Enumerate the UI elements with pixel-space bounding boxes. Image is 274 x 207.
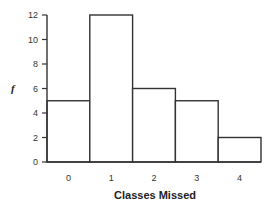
bar-4 xyxy=(218,138,261,163)
bar-0 xyxy=(47,101,90,162)
bar-3 xyxy=(175,101,218,162)
y-tick-label: 6 xyxy=(33,84,38,94)
bars xyxy=(47,15,261,162)
y-tick-label: 10 xyxy=(28,35,38,45)
x-axis-label: Classes Missed xyxy=(114,189,196,201)
x-axis: 01234 xyxy=(47,162,261,183)
bar-1 xyxy=(90,15,133,162)
y-tick-label: 0 xyxy=(33,157,38,167)
y-tick-label: 8 xyxy=(33,59,38,69)
bar-2 xyxy=(133,89,176,163)
histogram-chart: 024681012 01234 f Classes Missed xyxy=(0,0,274,207)
y-tick-label: 12 xyxy=(28,10,38,20)
y-tick-label: 2 xyxy=(33,133,38,143)
x-tick-label: 3 xyxy=(194,173,199,183)
y-axis-label: f xyxy=(11,82,16,94)
y-axis: 024681012 xyxy=(28,10,47,167)
x-tick-label: 0 xyxy=(66,173,71,183)
x-tick-label: 2 xyxy=(151,173,156,183)
x-tick-label: 4 xyxy=(237,173,242,183)
y-tick-label: 4 xyxy=(33,108,38,118)
x-tick-label: 1 xyxy=(109,173,114,183)
